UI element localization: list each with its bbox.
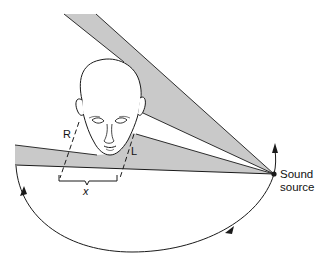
distance-label: x: [83, 186, 89, 197]
sound-source-point: [271, 171, 276, 176]
distance-brace: [59, 175, 117, 185]
left-ear-label: L: [131, 146, 137, 157]
sound-localization-diagram: R L x Sound source: [0, 0, 323, 263]
sound-source-label-line2: source: [280, 181, 315, 194]
movement-arc: [16, 166, 274, 252]
diagram-canvas: [0, 0, 323, 263]
sound-source-label: Sound source: [280, 168, 315, 194]
sound-source-label-line1: Sound: [280, 168, 315, 181]
arc-arrow-up-icon: [272, 143, 278, 153]
right-ear-label: R: [63, 129, 71, 140]
